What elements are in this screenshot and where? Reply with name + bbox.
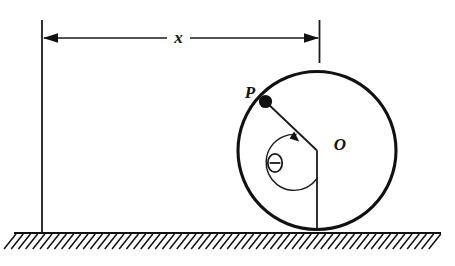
hatch-line [400,234,412,249]
point-p-marker [259,95,272,108]
hatch-line [227,234,239,249]
hatch-line [26,234,38,249]
hatch-line [371,234,383,249]
hatch-line [220,234,232,249]
theta-symbol-group [268,154,282,172]
hatch-line [18,234,30,249]
hatch-line [141,234,153,249]
hatch-line [292,234,304,249]
figure-canvas: x P O [0,0,455,266]
hatch-line [278,234,290,249]
hatch-line [62,234,74,249]
hatch-line [328,234,340,249]
hatch-line [213,234,225,249]
hatch-line [429,234,441,249]
hatch-line [342,234,354,249]
hatch-line [357,234,369,249]
center-o-label: O [334,135,346,154]
hatch-line [98,234,110,249]
hatch-line [306,234,318,249]
hatch-line [76,234,88,249]
hatch-line [234,234,246,249]
hatch-line [155,234,167,249]
distance-label-x: x [173,28,183,47]
hatch-line [299,234,311,249]
point-p-label: P [244,83,256,102]
hatch-line [11,234,23,249]
hatch-line [285,234,297,249]
hatch-line [407,234,419,249]
hatch-line [90,234,102,249]
hatch-line [134,234,146,249]
hatch-line [126,234,138,249]
hatch-line [69,234,81,249]
hatch-line [386,234,398,249]
hatch-line [335,234,347,249]
hatch-line [177,234,189,249]
hatch-line [184,234,196,249]
hatch-line [422,234,434,249]
hatch-line [54,234,66,249]
hatch-line [191,234,203,249]
hatch-line [105,234,117,249]
hatch-line [40,234,52,249]
hatch-line [378,234,390,249]
hatch-line [364,234,376,249]
right-arrowhead [304,33,319,43]
hatch-line [256,234,268,249]
hatch-line [270,234,282,249]
hatch-line [170,234,182,249]
hatch-line [414,234,426,249]
hatch-line [249,234,261,249]
hatch-line [321,234,333,249]
hatch-line [33,234,45,249]
hatch-line [350,234,362,249]
hatch-line [393,234,405,249]
hatch-line [148,234,160,249]
left-arrowhead [43,33,58,43]
hatch-line [314,234,326,249]
hatch-line [4,234,16,249]
hatch-line [198,234,210,249]
hatch-line [83,234,95,249]
ground-hatching [4,234,441,249]
hatch-line [242,234,254,249]
hatch-line [162,234,174,249]
hatch-line [47,234,59,249]
hatch-line [206,234,218,249]
hatch-line [112,234,124,249]
hatch-line [119,234,131,249]
diagram-svg: x P O [0,0,455,266]
hatch-line [263,234,275,249]
